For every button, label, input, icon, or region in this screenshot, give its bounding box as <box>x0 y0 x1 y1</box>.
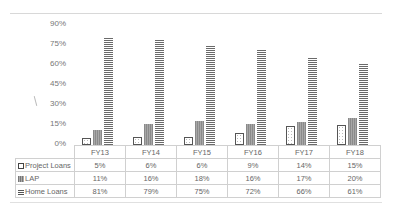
table-corner <box>16 146 75 159</box>
table-header: FY16 <box>228 146 279 159</box>
bar-home-loans <box>308 57 317 145</box>
y-tick: 15% <box>44 120 66 128</box>
lap-key-icon <box>18 176 24 182</box>
legend-lap: LAP <box>16 172 75 185</box>
bottom-divider <box>10 202 382 203</box>
table-cell: 14% <box>279 159 330 172</box>
bar-home-loans <box>206 45 215 145</box>
top-divider <box>10 13 382 14</box>
table-cell: 20% <box>330 172 381 185</box>
table-cell: 16% <box>228 172 279 185</box>
bar-project-loans <box>235 133 244 145</box>
table-cell: 11% <box>75 172 126 185</box>
bar-home-loans <box>104 37 113 145</box>
table-row: Project Loans 5% 6% 6% 9% 14% 15% <box>16 159 381 172</box>
table-header-row: FY13 FY14 FY15 FY16 FY17 FY18 <box>16 146 381 159</box>
plot-area <box>72 25 378 145</box>
bar-lap <box>93 130 102 145</box>
bar-lap <box>348 118 357 145</box>
legend-project-loans: Project Loans <box>16 159 75 172</box>
table-header: FY18 <box>330 146 381 159</box>
table-cell: 18% <box>177 172 228 185</box>
bar-project-loans <box>133 137 142 145</box>
table-header: FY13 <box>75 146 126 159</box>
stray-mark <box>34 96 38 106</box>
bar-home-loans <box>155 40 164 145</box>
table-cell: 17% <box>279 172 330 185</box>
bar-project-loans <box>82 138 91 145</box>
table-cell: 15% <box>330 159 381 172</box>
y-tick: 90% <box>44 20 66 28</box>
table-header: FY15 <box>177 146 228 159</box>
table-cell: 9% <box>228 159 279 172</box>
table-cell: 5% <box>75 159 126 172</box>
data-table: FY13 FY14 FY15 FY16 FY17 FY18 Project Lo… <box>15 145 381 198</box>
table-row: Home Loans 81% 79% 75% 72% 66% 61% <box>16 185 381 198</box>
table-cell: 75% <box>177 185 228 198</box>
table-row: LAP 11% 16% 18% 16% 17% 20% <box>16 172 381 185</box>
y-tick: 60% <box>44 60 66 68</box>
table-cell: 6% <box>126 159 177 172</box>
y-tick: 30% <box>44 100 66 108</box>
bar-home-loans <box>359 64 368 145</box>
bar-home-loans <box>257 49 266 145</box>
row-label: Project Loans <box>25 161 71 170</box>
table-cell: 16% <box>126 172 177 185</box>
bar-lap <box>144 124 153 145</box>
y-tick: 45% <box>44 80 66 88</box>
table-cell: 79% <box>126 185 177 198</box>
project-loans-key-icon <box>18 163 24 169</box>
bar-project-loans <box>337 125 346 145</box>
row-label: Home Loans <box>25 187 68 196</box>
y-tick: 75% <box>44 40 66 48</box>
home-loans-key-icon <box>18 189 24 195</box>
table-header: FY14 <box>126 146 177 159</box>
bar-lap <box>297 122 306 145</box>
table-cell: 66% <box>279 185 330 198</box>
table-cell: 61% <box>330 185 381 198</box>
table-cell: 6% <box>177 159 228 172</box>
table-cell: 72% <box>228 185 279 198</box>
row-label: LAP <box>25 174 39 183</box>
legend-home-loans: Home Loans <box>16 185 75 198</box>
bar-project-loans <box>286 126 295 145</box>
bar-lap <box>195 121 204 145</box>
table-cell: 81% <box>75 185 126 198</box>
bar-project-loans <box>184 137 193 145</box>
bar-lap <box>246 124 255 145</box>
table-header: FY17 <box>279 146 330 159</box>
